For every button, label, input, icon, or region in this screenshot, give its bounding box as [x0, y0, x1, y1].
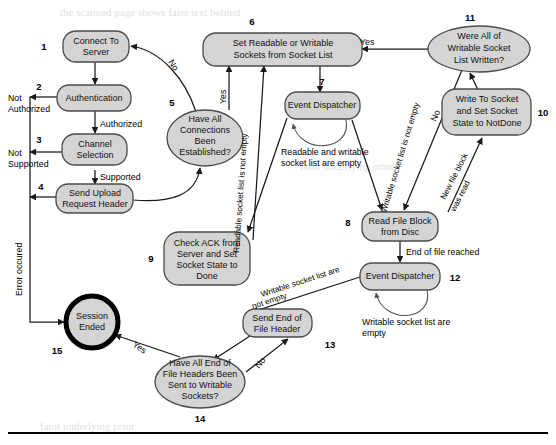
node-13-line-1: File Header: [254, 324, 301, 334]
node-6-line-0: Set Readable or Writable: [233, 38, 333, 48]
node-channel-selection[interactable]: Channel Selection 3: [36, 134, 127, 165]
node-6-line-1: Sockets from Socket List: [233, 50, 333, 60]
node-1-number: 1: [41, 41, 47, 52]
node-7-line-0: Event Dispatcher: [288, 100, 357, 110]
label-no-from-written: No: [429, 108, 443, 122]
label-not-supported-1: Supported: [8, 159, 49, 169]
label-error-occured: Error occured: [14, 243, 24, 296]
node-11-line-0: Were All of: [457, 31, 501, 41]
node-event-dispatcher-7[interactable]: Event Dispatcher 7: [285, 76, 360, 119]
edge-have-all-eof-no-to-send-eof: [246, 339, 288, 372]
svg-text:faint underlying print: faint underlying print: [40, 420, 134, 432]
edge-upload-to-connections: [133, 168, 200, 201]
label-yes-from-connections: Yes: [218, 89, 228, 104]
label-not-authorized-1: Authorized: [8, 104, 50, 114]
node-5-line-3: Established?: [179, 147, 231, 157]
node-1-line-1: Server: [83, 47, 110, 57]
edge-dispatcher12-self-loop: [376, 290, 428, 316]
edge-dispatcher7-to-check-ack: [248, 118, 287, 232]
node-6-number: 6: [249, 16, 254, 27]
edge-connections-no-to-connect: [131, 46, 196, 112]
node-8-line-1: from Disc: [381, 227, 419, 237]
node-14-line-1: File Headers Been: [163, 369, 238, 379]
edge-dispatcher7-self-loop: [293, 120, 346, 146]
node-event-dispatcher-12[interactable]: Event Dispatcher 12: [360, 263, 460, 290]
node-8-number: 8: [345, 217, 350, 228]
node-session-ended[interactable]: Session Ended 15: [52, 296, 118, 356]
node-5-line-2: Been: [194, 136, 215, 146]
node-3-line-1: Selection: [76, 150, 113, 160]
node-1-line-0: Connect To: [73, 36, 118, 46]
label-writable-socket-list-not-empty: Writable socket list is not empty: [379, 101, 421, 214]
node-4-number: 4: [38, 181, 44, 192]
node-read-file-block-from-disc[interactable]: Read File Block from Disc 8: [345, 212, 438, 241]
label-readable-writable-empty-0: Readable and writable: [281, 147, 369, 157]
node-9-number: 9: [148, 253, 153, 264]
node-2-number: 2: [36, 81, 41, 92]
node-7-number: 7: [319, 76, 324, 87]
node-were-all-writable-socket-written[interactable]: Were All of Writable Socket List Written…: [428, 12, 530, 72]
label-authorized: Authorized: [100, 119, 142, 129]
label-supported: Supported: [100, 172, 141, 182]
node-2-line-0: Authentication: [65, 93, 122, 103]
node-15-line-1: Ended: [79, 322, 105, 332]
node-8-line-0: Read File Block: [368, 216, 432, 226]
node-5-number: 5: [169, 97, 175, 108]
node-12-number: 12: [450, 272, 461, 283]
node-9-line-3: Done: [196, 271, 218, 281]
node-4-line-1: Request Header: [62, 199, 128, 209]
flowchart-canvas: the scanned page shows faint text behind…: [0, 0, 556, 445]
svg-text:the scanned page shows faint t: the scanned page shows faint text behind: [60, 6, 241, 18]
node-3-line-0: Channel: [78, 139, 112, 149]
node-send-end-of-file-header[interactable]: Send End of File Header 13: [243, 309, 335, 350]
label-no-from-connections: No: [166, 58, 181, 73]
node-12-line-0: Event Dispatcher: [366, 271, 435, 281]
node-authentication[interactable]: Authentication 2: [36, 81, 131, 111]
node-10-number: 10: [538, 107, 549, 118]
node-11-line-2: List Written?: [454, 55, 504, 65]
label-not-supported-0: Not: [8, 148, 22, 158]
node-14-line-3: Sockets?: [181, 391, 218, 401]
node-14-line-2: Sent to Writable: [168, 380, 232, 390]
node-5-line-0: Have All: [188, 114, 221, 124]
label-readable-writable-empty-1: socket list are empty: [281, 158, 362, 168]
label-end-of-file-reached: End of file reached: [406, 247, 479, 257]
edge-write-socket-to-written: [470, 73, 478, 90]
node-have-all-eof-headers-sent[interactable]: Have All End of File Headers Been Sent t…: [155, 356, 245, 424]
node-write-to-socket[interactable]: Write To Socket and Set Socket State to …: [442, 89, 548, 135]
node-11-number: 11: [465, 12, 476, 23]
node-14-number: 14: [195, 413, 206, 424]
node-11-line-1: Writable Socket: [448, 43, 511, 53]
node-9-line-2: Socket State to: [176, 260, 237, 270]
label-yes-from-written: Yes: [360, 37, 375, 47]
node-10-line-0: Write To Socket: [456, 94, 519, 104]
label-yes-to-session-ended: Yes: [131, 339, 149, 356]
node-5-line-1: Connections: [180, 125, 231, 135]
edge-send-eof-to-have-all-eof: [213, 336, 250, 360]
label-writable-socket-list-are-not-empty-0: Writable socket list are: [260, 265, 341, 299]
label-writable-socket-list-empty-1: empty: [362, 328, 387, 338]
node-10-line-1: and Set Socket: [456, 106, 518, 116]
node-4-line-0: Send Upload: [69, 188, 121, 198]
node-9-line-1: Server and Set: [177, 249, 238, 259]
node-10-line-2: State to NotDone: [452, 118, 521, 128]
node-15-number: 15: [52, 345, 63, 356]
node-13-line-0: Send End of: [252, 313, 302, 323]
node-connect-to-server[interactable]: Connect To Server 1: [41, 31, 129, 62]
node-13-number: 13: [325, 339, 336, 350]
node-have-all-connections-established[interactable]: Have All Connections Been Established? 5: [167, 97, 243, 166]
node-14-line-0: Have All End of: [169, 358, 231, 368]
label-writable-socket-list-empty-0: Writable socket list are: [362, 317, 450, 327]
node-9-line-0: Check ACK from: [174, 238, 241, 248]
node-15-line-0: Session: [76, 311, 108, 321]
node-3-number: 3: [36, 134, 41, 145]
label-not-authorized-0: Not: [8, 93, 22, 103]
node-set-readable-or-writable-sockets[interactable]: Set Readable or Writable Sockets from So…: [203, 16, 362, 66]
